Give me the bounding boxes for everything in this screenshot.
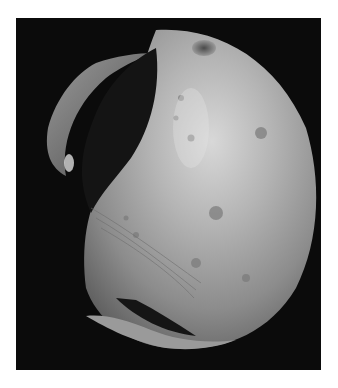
moon-photograph (16, 18, 321, 370)
bright-spot (64, 154, 74, 172)
bright-ridge (173, 88, 209, 168)
moon-illustration (16, 18, 321, 370)
top-crater (192, 40, 216, 56)
